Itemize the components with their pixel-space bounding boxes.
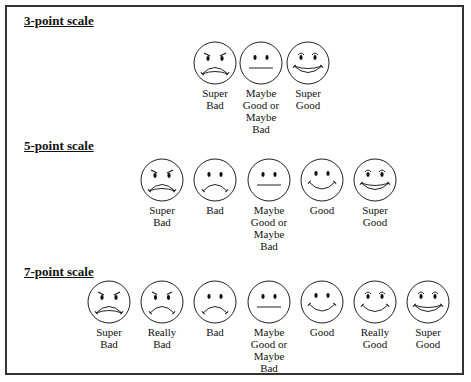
face-super-good: Super Good — [286, 41, 330, 111]
face-neutral: Maybe Good or Maybe Bad — [239, 41, 283, 135]
face-label: Bad — [185, 326, 245, 338]
face-label: Really Good — [345, 326, 405, 350]
section-title: 3-point scale — [24, 13, 94, 29]
face-bad: Bad — [193, 158, 237, 216]
face-label: Super Bad — [132, 204, 192, 228]
really-bad-face-icon — [140, 280, 184, 324]
face-really-good: Really Good — [353, 280, 397, 350]
face-label: Super Good — [398, 326, 458, 350]
face-label: Really Bad — [132, 326, 192, 350]
face-label: Super Good — [345, 204, 405, 228]
face-neutral: Maybe Good or Maybe Bad — [247, 158, 291, 252]
face-bad: Bad — [193, 280, 237, 338]
face-label: Good — [292, 204, 352, 216]
bad-face-icon — [193, 158, 237, 202]
face-really-bad: Really Bad — [140, 280, 184, 350]
super-bad-face-icon — [87, 280, 131, 324]
face-label: Good — [292, 326, 352, 338]
face-label: Maybe Good or Maybe Bad — [239, 326, 299, 374]
face-neutral: Maybe Good or Maybe Bad — [247, 280, 291, 374]
face-good: Good — [300, 158, 344, 216]
face-label: Maybe Good or Maybe Bad — [239, 204, 299, 252]
neutral-face-icon — [247, 158, 291, 202]
face-super-bad: Super Bad — [140, 158, 184, 228]
super-bad-face-icon — [140, 158, 184, 202]
bad-face-icon — [193, 280, 237, 324]
really-good-face-icon — [353, 280, 397, 324]
face-super-good: Super Good — [353, 158, 397, 228]
likert-scale-figure: 3-point scale Super Bad Mayb — [5, 5, 464, 375]
face-super-good: Super Good — [406, 280, 450, 350]
good-face-icon — [300, 158, 344, 202]
super-good-face-icon — [286, 41, 330, 85]
good-face-icon — [300, 280, 344, 324]
face-label: Super Good — [278, 87, 338, 111]
super-good-face-icon — [353, 158, 397, 202]
section-title: 5-point scale — [24, 138, 94, 154]
face-good: Good — [300, 280, 344, 338]
super-bad-face-icon — [193, 41, 237, 85]
face-label: Super Bad — [79, 326, 139, 350]
super-good-face-icon — [406, 280, 450, 324]
face-super-bad: Super Bad — [87, 280, 131, 350]
neutral-face-icon — [239, 41, 283, 85]
section-title: 7-point scale — [24, 264, 94, 280]
face-label: Bad — [185, 204, 245, 216]
neutral-face-icon — [247, 280, 291, 324]
